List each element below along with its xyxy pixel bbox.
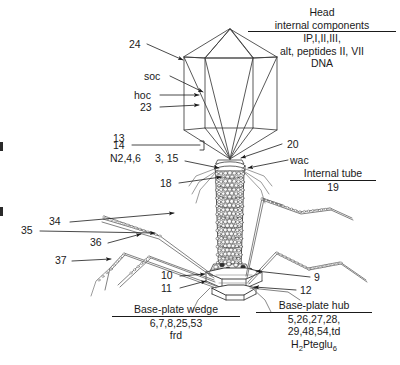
label-N246: N2,4,6: [110, 152, 141, 165]
cofactor-sub-6: 6: [333, 344, 337, 353]
internal-tube-heading: Internal tube: [290, 167, 376, 181]
label-18: 18: [160, 177, 172, 190]
base-plate: [206, 262, 262, 300]
label-3-15: 3, 15: [155, 152, 178, 165]
label-36: 36: [90, 236, 102, 249]
head-components-line-2: alt, peptides II, VII: [248, 45, 396, 58]
base-plate-wedge-block: Base-plate wedge 6,7,8,25,53 frd: [112, 303, 240, 342]
label-34: 34: [49, 215, 61, 228]
base-plate-wedge-genes: 6,7,8,25,53: [112, 317, 240, 330]
base-plate-hub-heading: Base-plate hub: [256, 299, 372, 313]
label-12: 12: [300, 284, 312, 297]
label-10: 10: [161, 269, 173, 282]
base-plate-wedge-extra: frd: [112, 329, 240, 342]
phage-t4-diagram-figure: Head internal components IP,I,II,III, al…: [0, 0, 400, 365]
base-plate-hub-genes-1: 5,26,27,28,: [256, 313, 372, 326]
tail-sheath: [215, 171, 245, 269]
label-14: 14: [113, 139, 125, 152]
cofactor-h: H: [291, 338, 299, 350]
label-wac: wac: [290, 154, 309, 167]
head-internal-components-block: Head internal components IP,I,II,III, al…: [248, 6, 396, 70]
internal-tube-block: Internal tube 19: [290, 167, 376, 193]
label-23: 23: [140, 101, 152, 114]
base-plate-wedge-heading: Base-plate wedge: [112, 303, 240, 317]
tail-fibers-left: [91, 216, 216, 296]
head-components-line-1: IP,I,II,III,: [248, 32, 396, 45]
head-components-line-3: DNA: [248, 57, 396, 70]
label-19: 19: [290, 181, 376, 194]
page-edge-mark-bottom: [0, 207, 3, 216]
cofactor-pteglu: Pteglu: [303, 338, 333, 350]
label-9: 9: [314, 271, 320, 284]
base-plate-hub-block: Base-plate hub 5,26,27,28, 29,48,54,td H…: [256, 299, 372, 355]
label-hoc: hoc: [134, 89, 151, 102]
head-internal-components-heading: internal components: [248, 19, 396, 33]
page-edge-mark-top: [0, 142, 3, 151]
base-plate-hub-cofactor: H2Pteglu6: [256, 338, 372, 356]
label-37: 37: [55, 254, 67, 267]
label-20: 20: [287, 138, 299, 151]
label-soc: soc: [144, 70, 160, 83]
label-11: 11: [161, 282, 172, 295]
label-24: 24: [129, 38, 141, 51]
head-title-line: Head: [248, 6, 396, 19]
base-plate-hub-genes-2: 29,48,54,td: [256, 325, 372, 338]
label-35: 35: [21, 224, 33, 237]
